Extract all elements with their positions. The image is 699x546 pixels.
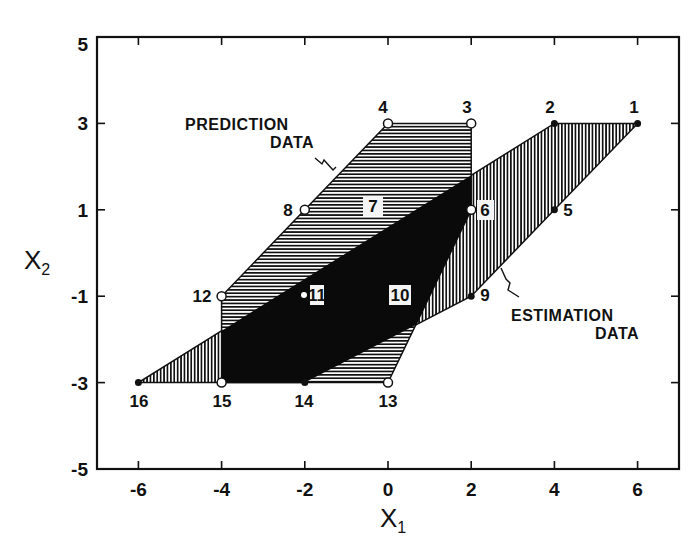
point-2 [551,120,558,127]
y-axis-title: X2 [24,245,50,278]
point-12-label: 12 [193,287,212,306]
y-tick-label: -1 [71,286,88,307]
x-tick-labels: -6 -4 -2 0 2 4 6 [130,479,643,500]
point-8-label: 8 [283,201,292,220]
point-4 [384,119,393,128]
point-15 [217,378,226,387]
svg-text:PREDICTION: PREDICTION [185,116,289,133]
point-13-label: 13 [379,392,398,411]
x-tick-label: 0 [383,479,394,500]
y-tick-label: -5 [71,459,88,480]
point-5 [551,206,558,213]
x-tick-label: 2 [466,479,477,500]
point-13 [384,378,393,387]
point-1 [634,120,641,127]
x-tick-label: -6 [130,479,147,500]
design-region-figure: -6 -4 -2 0 2 4 6 5 3 1 -1 -3 -5 X1 X2 PR… [0,0,699,546]
svg-text:DATA: DATA [270,134,314,151]
point-14 [301,379,308,386]
point-12 [217,292,226,301]
y-tick-label: -3 [71,373,88,394]
y-tick-label: 3 [77,113,88,134]
point-11 [301,292,307,298]
svg-text:ESTIMATION: ESTIMATION [511,307,613,324]
x-tick-label: 6 [632,479,643,500]
prediction-data-annotation: PREDICTION DATA [185,116,336,170]
point-9-label: 9 [480,286,489,305]
point-4-label: 4 [378,98,388,117]
svg-text:DATA: DATA [595,325,639,342]
point-8 [300,205,309,214]
point-9 [468,293,475,300]
y-tick-label: 1 [77,200,88,221]
point-5-label: 5 [563,201,572,220]
point-7-label: 7 [368,197,377,216]
point-6 [467,205,476,214]
point-11-label: 11 [308,286,326,305]
x-tick-label: -4 [213,479,230,500]
x-tick-label: 4 [549,479,560,500]
point-3 [467,119,476,128]
point-2-label: 2 [545,98,554,117]
interior-points [301,292,307,298]
point-16-label: 16 [130,392,149,411]
point-16 [135,379,142,386]
point-1-label: 1 [629,98,638,117]
point-14-label: 14 [295,392,314,411]
y-tick-label: 5 [77,34,88,55]
y-tick-labels: 5 3 1 -1 -3 -5 [71,34,88,480]
point-15-label: 15 [213,392,232,411]
point-6-label: 6 [480,201,489,220]
point-10-label: 10 [391,286,410,305]
estimation-data-annotation: ESTIMATION DATA [501,268,639,342]
x-axis-title: X1 [380,503,406,536]
prediction-leader-line [315,158,336,170]
estimation-leader-line [501,268,519,297]
point-3-label: 3 [462,98,471,117]
x-tick-label: -2 [296,479,313,500]
